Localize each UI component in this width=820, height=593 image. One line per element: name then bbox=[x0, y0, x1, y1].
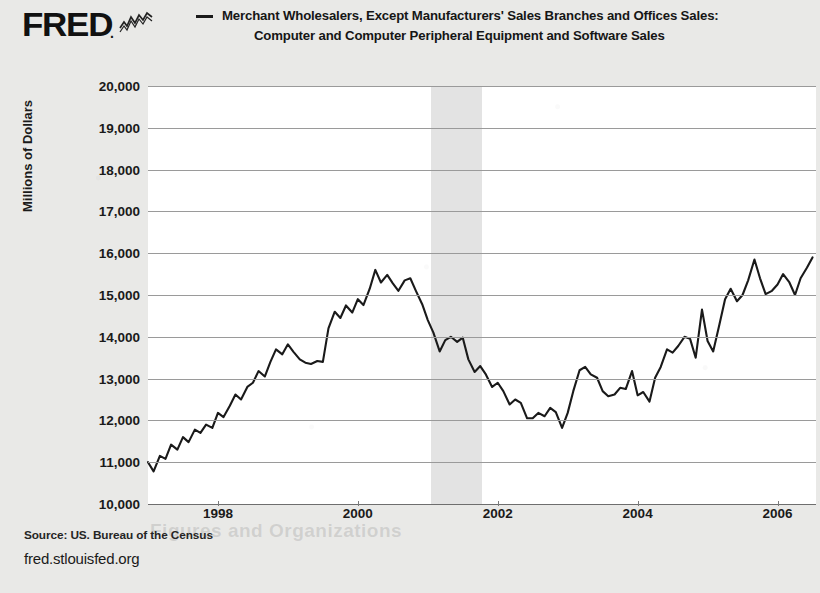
x-axis-tick-label: 1998 bbox=[203, 506, 233, 521]
y-axis-tick-label: 18,000 bbox=[56, 162, 140, 177]
y-axis-tick-label: 15,000 bbox=[56, 288, 140, 303]
gridline bbox=[148, 295, 816, 296]
x-axis-tick-mark bbox=[358, 501, 359, 506]
fred-url[interactable]: fred.stlouisfed.org bbox=[24, 550, 213, 567]
x-axis-tick-mark bbox=[638, 501, 639, 506]
gridline bbox=[148, 504, 816, 505]
gridline bbox=[148, 253, 816, 254]
gridline bbox=[148, 170, 816, 171]
y-axis-tick-label: 17,000 bbox=[56, 204, 140, 219]
plot-area bbox=[148, 86, 816, 504]
y-axis-tick-label: 13,000 bbox=[56, 371, 140, 386]
gridline bbox=[148, 128, 816, 129]
gridline bbox=[148, 420, 816, 421]
legend-label-line1: Merchant Wholesalers, Except Manufacture… bbox=[222, 8, 719, 23]
x-axis-tick-mark bbox=[498, 501, 499, 506]
line-chart-icon bbox=[119, 11, 153, 37]
x-axis-ticks: 19982000200220042006 bbox=[148, 506, 816, 532]
y-axis-tick-label: 10,000 bbox=[56, 497, 140, 512]
legend-line-swatch bbox=[196, 15, 213, 18]
legend-label: Merchant Wholesalers, Except Manufacture… bbox=[222, 6, 719, 46]
y-axis-tick-label: 11,000 bbox=[56, 455, 140, 470]
x-axis-tick-mark bbox=[778, 501, 779, 506]
series-polyline bbox=[148, 257, 813, 471]
y-axis-tick-label: 19,000 bbox=[56, 120, 140, 135]
y-axis-ticks: 20,00019,00018,00017,00016,00015,00014,0… bbox=[50, 86, 140, 504]
x-axis-tick-mark bbox=[218, 501, 219, 506]
gridline bbox=[148, 379, 816, 380]
x-axis-tick-label: 2002 bbox=[483, 506, 513, 521]
y-axis-title: Millions of Dollars bbox=[20, 100, 35, 212]
fred-logo-dot: . bbox=[110, 26, 114, 40]
legend: Merchant Wholesalers, Except Manufacture… bbox=[196, 6, 808, 46]
fred-logo: FRED . bbox=[22, 8, 151, 41]
y-axis-tick-label: 16,000 bbox=[56, 246, 140, 261]
x-axis-tick-label: 2004 bbox=[623, 506, 653, 521]
source-note: Source: US. Bureau of the Census bbox=[24, 528, 213, 542]
gridline bbox=[148, 337, 816, 338]
y-axis-tick-label: 12,000 bbox=[56, 413, 140, 428]
chart-header: FRED . Merchant Wholesalers, Except Manu… bbox=[0, 0, 820, 66]
fred-logo-text: FRED bbox=[22, 8, 112, 41]
gridline bbox=[148, 86, 816, 87]
y-axis-tick-label: 14,000 bbox=[56, 329, 140, 344]
x-axis-tick-label: 2000 bbox=[343, 506, 373, 521]
gridline bbox=[148, 462, 816, 463]
gridline bbox=[148, 211, 816, 212]
y-axis-tick-label: 20,000 bbox=[56, 79, 140, 94]
legend-label-line2: Computer and Computer Peripheral Equipme… bbox=[222, 26, 719, 46]
x-axis-tick-label: 2006 bbox=[762, 506, 792, 521]
chart-footer: Source: US. Bureau of the Census fred.st… bbox=[24, 528, 213, 567]
